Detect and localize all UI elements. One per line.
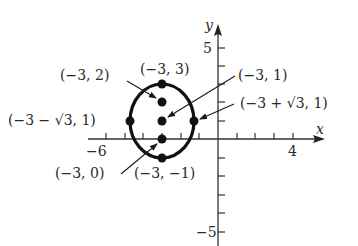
point-lower-focus — [158, 135, 167, 144]
point-bottom-vertex — [158, 154, 167, 163]
arrow-right — [200, 104, 234, 119]
tick-label-neg5: −5 — [196, 225, 217, 239]
arrow-upper — [127, 81, 156, 98]
arrow-center — [168, 76, 235, 117]
point-left-covertex — [126, 117, 135, 126]
label-top-vertex: (−3, 3) — [140, 62, 189, 76]
y-axis — [214, 24, 225, 246]
label-lower-focus: (−3, 0) — [55, 166, 104, 180]
label-center: (−3, 1) — [238, 68, 287, 82]
tick-label-5: 5 — [203, 41, 212, 55]
label-left-covertex: (−3 − √3, 1) — [8, 113, 96, 127]
label-bottom-vertex: (−3, −1) — [134, 166, 195, 180]
point-top-vertex — [158, 80, 167, 89]
label-upper-focus: (−3, 2) — [60, 68, 109, 82]
points — [126, 80, 199, 163]
point-upper-focus — [158, 98, 167, 107]
point-center — [158, 117, 167, 126]
tick-label-neg6: −6 — [86, 144, 107, 158]
label-right-covertex: (−3 + √3, 1) — [240, 96, 328, 110]
x-axis-label: x — [316, 122, 324, 136]
x-axis — [88, 133, 325, 143]
point-right-covertex — [190, 117, 199, 126]
tick-label-4: 4 — [288, 144, 297, 158]
y-axis-label: y — [205, 18, 213, 32]
y-ticks — [218, 48, 225, 232]
